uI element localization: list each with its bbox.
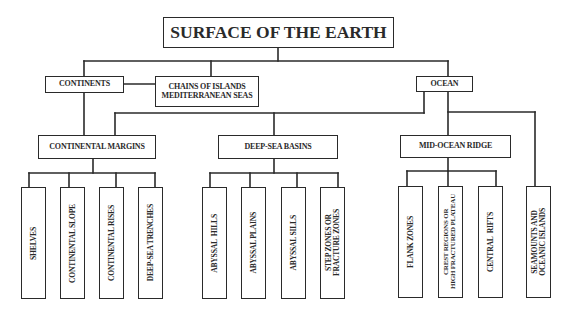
surface-of-earth-diagram: SURFACE OF THE EARTH CONTINENTS CHAINS O… [0, 0, 568, 318]
leaf-abyssal-hills: ABYSSAL HILLS [202, 187, 227, 299]
leaf-label: ABYSSAL SILLS [290, 215, 298, 270]
leaf-label-line2: OCEANIC ISLANDS [538, 208, 547, 276]
leaf-central-rifts: CENTRAL RIFTS [478, 186, 503, 298]
node-label: CONTINENTS [59, 80, 110, 88]
node-label: DEEP-SEA BASINS [244, 143, 311, 151]
leaf-deep-sea-trenches: DEEP-SEA TRENCHES [138, 187, 163, 299]
leaf-label: ABYSSAL HILLS [211, 214, 219, 273]
node-ocean: OCEAN [416, 76, 473, 92]
node-label: OCEAN [431, 80, 459, 88]
leaf-label: CONTINENTAL RISES [108, 205, 116, 281]
leaf-label: CENTRAL RIFTS [487, 212, 495, 272]
node-continental-margins: CONTINENTAL MARGINS [38, 135, 156, 159]
node-continents: CONTINENTS [45, 76, 124, 93]
node-label: CONTINENTAL MARGINS [49, 143, 144, 151]
leaf-label: STEP ZONES OR FRACTURE ZONES [325, 209, 341, 276]
node-label: MID-OCEAN RIDGE [419, 142, 492, 150]
leaf-continental-slope: CONTINENTAL SLOPE [60, 187, 85, 299]
leaf-label: ABYSSAL PLAINS [250, 212, 258, 274]
node-deep-sea-basins: DEEP-SEA BASINS [218, 135, 338, 159]
leaf-abyssal-sills: ABYSSAL SILLS [281, 187, 306, 299]
title-box: SURFACE OF THE EARTH [163, 17, 394, 48]
leaf-label: CONTINENTAL SLOPE [69, 204, 77, 283]
leaf-crest-regions: CREST REGIONS OR HIGH FRACTURED PLATEAU [438, 186, 463, 298]
node-chains-of-islands: CHAINS OF ISLANDS MEDITERRANEAN SEAS [155, 76, 259, 107]
node-label-line2: MEDITERRANEAN SEAS [162, 92, 253, 100]
leaf-label: SEAMOUNTS AND OCEANIC ISLANDS [531, 208, 547, 276]
leaf-label: CREST REGIONS OR HIGH FRACTURED PLATEAU [443, 194, 458, 289]
node-mid-ocean-ridge: MID-OCEAN RIDGE [400, 135, 511, 158]
leaf-label-line2: FRACTURE ZONES [332, 209, 341, 276]
leaf-shelves: SHELVES [21, 187, 46, 299]
leaf-seamounts-oceanic-islands: SEAMOUNTS AND OCEANIC ISLANDS [526, 186, 551, 298]
leaf-abyssal-plains: ABYSSAL PLAINS [241, 187, 266, 299]
leaf-label: FLANK ZONES [407, 216, 415, 268]
leaf-label: SHELVES [30, 227, 38, 260]
leaf-step-zones: STEP ZONES OR FRACTURE ZONES [320, 187, 345, 299]
leaf-label-line2: HIGH FRACTURED PLATEAU [450, 194, 458, 289]
leaf-continental-rises: CONTINENTAL RISES [99, 187, 124, 299]
leaf-flank-zones: FLANK ZONES [398, 186, 423, 298]
leaf-label: DEEP-SEA TRENCHES [147, 204, 155, 281]
title-text: SURFACE OF THE EARTH [170, 23, 386, 41]
